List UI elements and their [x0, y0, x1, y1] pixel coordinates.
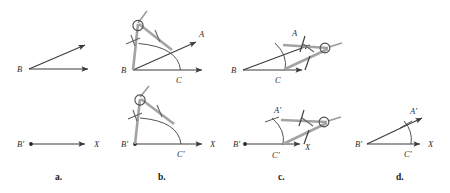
panel-d-bottom-label-upper-point: A' — [409, 106, 417, 116]
panel-a-bottom-vertex-dot — [29, 142, 33, 146]
figure-background — [0, 0, 450, 193]
panel-a-top-label-vertex: B — [17, 64, 22, 74]
panel-b-bottom-label-lower-point: C' — [177, 149, 185, 159]
panel-d-bottom-label-lower-point: C' — [404, 149, 412, 159]
panel-b-top-label-lower-point: C — [176, 75, 182, 85]
panel-b-top-label-vertex: B — [121, 65, 126, 75]
caption-a: a. — [55, 172, 62, 182]
panel-b-top-label-upper-ray: A — [198, 29, 205, 39]
panel-c-bottom-label-upper-point: A' — [273, 105, 281, 115]
caption-b: b. — [158, 172, 166, 182]
panel-c-bottom-label-lower-point: C' — [272, 150, 280, 160]
panel-d-bottom-label-vertex: B' — [355, 139, 362, 149]
panel-c-bottom-label-vertex: B' — [233, 139, 240, 149]
angle-copy-construction-figure: B B' X B A C — [0, 0, 450, 193]
panel-c-top-label-upper-point: A — [291, 28, 298, 38]
panel-c-bottom-vertex-dot — [243, 142, 247, 146]
panel-c-bottom-label-ray-end: X — [304, 142, 311, 152]
caption-c: c. — [278, 172, 285, 182]
panel-b-bottom-label-ray-end: X — [209, 139, 216, 149]
panel-a-bottom-label-vertex: B' — [17, 139, 24, 149]
panel-c-top-label-lower-point: C — [275, 75, 281, 85]
panel-d-bottom-label-ray-end: X — [427, 139, 434, 149]
panel-b-bottom-label-vertex: B' — [121, 139, 128, 149]
panel-a-bottom-label-ray-end: X — [93, 139, 100, 149]
panel-c-top-label-vertex: B — [231, 65, 236, 75]
caption-d: d. — [396, 172, 404, 182]
